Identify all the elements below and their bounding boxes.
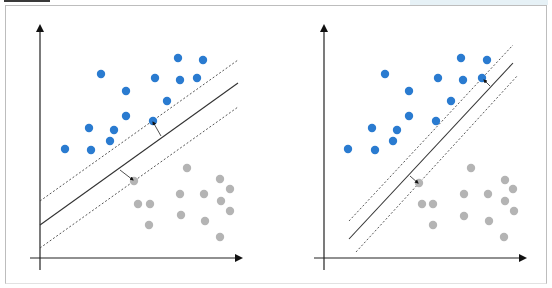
- class-b-point: [217, 197, 225, 205]
- class-b-point: [134, 200, 142, 208]
- class-b-point: [484, 190, 492, 198]
- class-a-point: [122, 87, 130, 95]
- support-vector-arrow: [153, 122, 161, 136]
- class-b-point: [216, 233, 224, 241]
- class-a-point: [371, 146, 379, 154]
- class-b-point: [226, 207, 234, 215]
- class-b-point: [501, 176, 509, 184]
- class-b-point: [429, 200, 437, 208]
- class-a-point: [106, 137, 114, 145]
- class-b-point: [176, 190, 184, 198]
- class-a-point: [483, 56, 491, 64]
- class-b-point: [429, 221, 437, 229]
- class-b-point: [216, 175, 224, 183]
- lower-margin-line: [40, 107, 238, 248]
- class-a-point: [122, 112, 130, 120]
- upper-margin-line: [40, 60, 238, 201]
- class-b-point: [418, 200, 426, 208]
- class-b-point: [146, 200, 154, 208]
- class-b-point: [183, 164, 191, 172]
- class-b-point: [510, 207, 518, 215]
- class-a-point: [97, 70, 105, 78]
- class-a-point: [87, 146, 95, 154]
- support-vector-arrow: [484, 80, 490, 86]
- class-a-point: [174, 54, 182, 62]
- class-a-point: [389, 137, 397, 145]
- class-a-point: [61, 145, 69, 153]
- class-a-point: [447, 97, 455, 105]
- class-b-point: [500, 233, 508, 241]
- class-a-point: [110, 126, 118, 134]
- support-vector-arrow: [120, 170, 133, 180]
- left-panel-wide-margin: [30, 26, 241, 270]
- class-a-point: [434, 74, 442, 82]
- class-b-point: [201, 217, 209, 225]
- class-a-point: [193, 74, 201, 82]
- class-b-point: [485, 217, 493, 225]
- class-b-point: [226, 185, 234, 193]
- class-a-point: [405, 112, 413, 120]
- class-a-point: [151, 74, 159, 82]
- class-a-point: [381, 70, 389, 78]
- class-a-point: [459, 76, 467, 84]
- class-a-point: [393, 126, 401, 134]
- svm-comparison-diagram: [0, 0, 552, 288]
- class-b-point: [200, 190, 208, 198]
- class-b-point: [145, 221, 153, 229]
- class-a-point: [432, 117, 440, 125]
- class-a-point: [163, 97, 171, 105]
- class-a-point: [176, 76, 184, 84]
- right-panel-narrow-margin: [314, 26, 525, 270]
- class-a-point: [368, 124, 376, 132]
- class-b-point: [177, 211, 185, 219]
- class-a-point: [149, 117, 157, 125]
- class-a-point: [457, 54, 465, 62]
- class-b-point: [509, 185, 517, 193]
- class-b-point: [467, 164, 475, 172]
- class-b-point: [460, 190, 468, 198]
- class-a-point: [85, 124, 93, 132]
- class-a-point: [344, 145, 352, 153]
- class-a-point: [199, 56, 207, 64]
- class-b-point: [460, 212, 468, 220]
- class-b-point: [501, 197, 509, 205]
- class-a-point: [405, 87, 413, 95]
- class-b-point: [415, 179, 423, 187]
